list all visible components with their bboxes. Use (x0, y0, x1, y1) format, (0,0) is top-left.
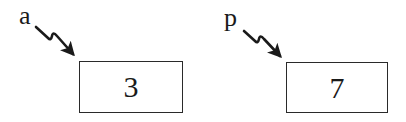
variable-label-p: p (224, 5, 237, 31)
cell-value-p: 7 (330, 73, 345, 103)
pointer-diagram: a 3 p 7 (0, 0, 406, 122)
memory-cell-p: 7 (286, 62, 388, 113)
zigzag-arrow-icon (244, 31, 280, 56)
zigzag-arrow-icon (36, 27, 73, 54)
variable-label-a: a (19, 3, 31, 29)
memory-cell-a: 3 (79, 61, 183, 113)
cell-value-a: 3 (124, 72, 139, 102)
